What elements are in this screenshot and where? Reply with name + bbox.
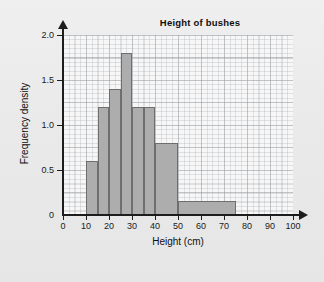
x-axis-tick — [201, 216, 202, 220]
histogram-bar — [109, 89, 121, 215]
histogram-bar — [86, 161, 98, 215]
x-axis-tick-label: 10 — [81, 221, 91, 231]
y-axis-tick-label: 2.0 — [41, 30, 54, 40]
x-axis-tick — [132, 216, 133, 220]
chart-title: Height of bushes — [120, 17, 280, 28]
x-axis-tick — [63, 216, 64, 220]
y-axis-title: Frequency density — [19, 64, 30, 184]
x-axis-tick-label: 30 — [127, 221, 137, 231]
x-axis-tick — [224, 216, 225, 220]
x-axis-tick — [86, 216, 87, 220]
histogram-bar — [98, 107, 110, 215]
x-axis-tick — [109, 216, 110, 220]
histogram-bar — [178, 201, 236, 215]
x-axis-tick-label: 20 — [104, 221, 114, 231]
x-axis-tick — [270, 216, 271, 220]
y-axis-tick — [57, 170, 62, 171]
y-axis-tick-label: 1.0 — [41, 120, 54, 130]
x-axis-arrow-icon — [299, 210, 308, 220]
x-axis-tick — [155, 216, 156, 220]
chart-page: 0102030405060708090100 00.51.01.52.0 Hei… — [0, 0, 324, 282]
y-axis-line — [62, 28, 64, 216]
x-axis-tick-label: 80 — [242, 221, 252, 231]
y-axis-tick-label: 0 — [49, 210, 54, 220]
y-axis-arrow-icon — [58, 20, 68, 29]
x-axis-tick — [247, 216, 248, 220]
y-axis-tick-label: 1.5 — [41, 75, 54, 85]
x-axis-tick-label: 70 — [219, 221, 229, 231]
histogram-chart: 0102030405060708090100 00.51.01.52.0 Hei… — [0, 0, 324, 282]
y-axis-tick — [57, 80, 62, 81]
y-axis-tick — [57, 125, 62, 126]
x-axis-tick-label: 90 — [265, 221, 275, 231]
x-axis-tick-label: 0 — [60, 221, 65, 231]
histogram-bar — [132, 107, 144, 215]
x-axis-tick — [293, 216, 294, 220]
histogram-bar — [121, 53, 133, 215]
x-axis-tick-label: 100 — [285, 221, 300, 231]
y-axis-tick — [57, 35, 62, 36]
y-axis-tick-label: 0.5 — [41, 165, 54, 175]
x-axis-tick-label: 40 — [150, 221, 160, 231]
histogram-bar — [155, 143, 178, 215]
x-axis-tick-label: 60 — [196, 221, 206, 231]
x-axis-title: Height (cm) — [63, 236, 293, 247]
x-axis-line — [62, 214, 302, 216]
x-axis-tick — [178, 216, 179, 220]
x-axis-tick-label: 50 — [173, 221, 183, 231]
histogram-bar — [144, 107, 156, 215]
